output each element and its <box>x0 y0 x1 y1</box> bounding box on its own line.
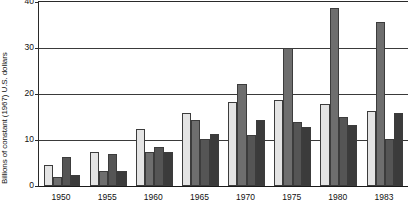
x-axis-tick-label: 1960 <box>144 192 163 202</box>
page-bottom-edge <box>0 207 409 210</box>
bar <box>182 113 191 186</box>
bar <box>200 139 209 186</box>
x-axis-tick-labels: 19501955196019651970197519801983 <box>0 190 409 204</box>
bar <box>330 8 339 186</box>
y-axis-tick-mark <box>35 94 39 95</box>
bar <box>117 171 126 186</box>
bar <box>274 100 283 186</box>
y-axis-label: Billions of constant (1967) U.S. dollars <box>0 52 9 184</box>
bar <box>256 120 265 186</box>
bar <box>164 152 173 186</box>
bar <box>302 127 311 186</box>
y-axis-tick-label: 10 <box>14 135 34 143</box>
bar <box>237 84 246 186</box>
bar <box>376 22 385 186</box>
x-axis-tick-label: 1965 <box>190 192 209 202</box>
x-axis-tick-label: 1970 <box>236 192 255 202</box>
bar <box>348 125 357 186</box>
bar <box>154 147 163 186</box>
y-axis-tick-mark <box>35 186 39 187</box>
bar <box>62 157 71 186</box>
bar <box>367 111 376 186</box>
bar <box>145 152 154 186</box>
bar <box>385 139 394 186</box>
plot-area <box>38 1 408 187</box>
bar <box>339 117 348 186</box>
y-axis-tick-labels: 010203040 <box>14 0 34 190</box>
bar <box>90 152 99 187</box>
y-axis-tick-label: 40 <box>14 0 34 5</box>
bar <box>210 134 219 186</box>
x-axis-tick-label: 1975 <box>282 192 301 202</box>
bar <box>283 48 292 186</box>
gridline <box>39 48 408 49</box>
bar <box>136 129 145 186</box>
y-axis-tick-mark <box>35 48 39 49</box>
y-axis-tick-label: 30 <box>14 43 34 51</box>
x-axis-tick-label: 1955 <box>98 192 117 202</box>
y-axis-tick-mark <box>35 140 39 141</box>
y-axis-tick-label: 20 <box>14 89 34 97</box>
x-axis-tick-label: 1980 <box>328 192 347 202</box>
bar <box>320 104 329 186</box>
bar <box>71 175 80 186</box>
gridline <box>39 94 408 95</box>
bar <box>191 120 200 186</box>
bar <box>108 154 117 186</box>
bar <box>53 177 62 186</box>
bar <box>99 171 108 186</box>
y-axis-tick-label: 0 <box>14 181 34 189</box>
chart-figure: Billions of constant (1967) U.S. dollars… <box>0 0 409 210</box>
x-axis-tick-label: 1950 <box>52 192 71 202</box>
y-axis-tick-mark <box>35 2 39 3</box>
bar <box>394 113 403 186</box>
bar <box>247 135 256 186</box>
bar <box>228 102 237 186</box>
x-axis-tick-label: 1983 <box>374 192 393 202</box>
bar <box>293 122 302 186</box>
bar <box>44 165 53 186</box>
